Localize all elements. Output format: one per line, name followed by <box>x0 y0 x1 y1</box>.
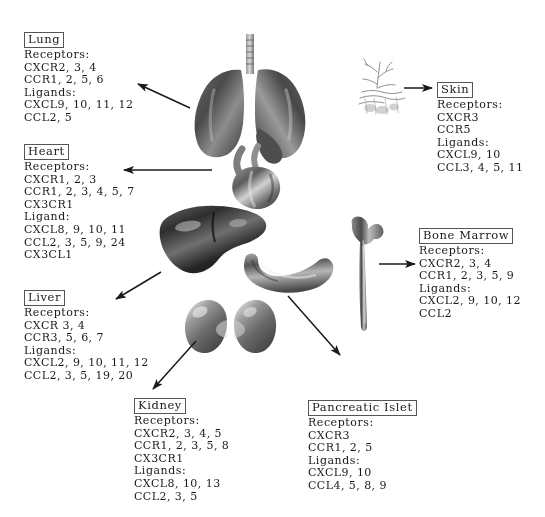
block-title-heart: Heart <box>24 144 69 160</box>
figure-canvas: Lung Receptors: CXCR2, 3, 4 CCR1, 2, 5, … <box>0 0 545 517</box>
annotation-block-skin: Skin Receptors: CXCR3 CCR5 Ligands: CXCL… <box>437 78 523 175</box>
kidneys-illustration <box>182 296 282 358</box>
kidney-ligand-ccl: CCL2, 3, 5 <box>134 491 229 504</box>
block-title-bone-marrow: Bone Marrow <box>419 228 513 244</box>
heart-ligand-cxcl: CXCL8, 9, 10, 11 <box>24 224 135 237</box>
islet-ligand-ccl: CCL4, 5, 8, 9 <box>308 480 417 493</box>
islet-receptors-header: Receptors: <box>308 417 417 430</box>
lung-ligand-ccl: CCL2, 5 <box>24 112 133 125</box>
skin-tissue-illustration <box>356 58 408 118</box>
lung-receptors-header: Receptors: <box>24 49 133 62</box>
femur-bone-illustration <box>348 214 392 336</box>
kidney-receptors-header: Receptors: <box>134 415 229 428</box>
islet-receptor-ccr: CCR1, 2, 5 <box>308 442 417 455</box>
annotation-block-heart: Heart Receptors: CXCR1, 2, 3 CCR1, 2, 3,… <box>24 140 135 262</box>
arrow-pancreas-to-pancreatic-islet <box>288 296 340 355</box>
liver-receptor-ccr: CCR3, 5, 6, 7 <box>24 332 149 345</box>
block-title-skin: Skin <box>437 82 473 98</box>
annotation-block-pancreatic-islet: Pancreatic Islet Receptors: CXCR3 CCR1, … <box>308 396 417 493</box>
kidney-ligand-cxcl: CXCL8, 10, 13 <box>134 478 229 491</box>
block-title-lung: Lung <box>24 32 64 48</box>
annotation-block-bone-marrow: Bone Marrow Receptors: CXCR2, 3, 4 CCR1,… <box>419 224 521 321</box>
skin-ligand-ccl: CCL3, 4, 5, 11 <box>437 162 523 175</box>
annotation-block-kidney: Kidney Receptors: CXCR2, 3, 4, 5 CCR1, 2… <box>134 394 229 503</box>
block-title-liver: Liver <box>24 290 65 306</box>
pancreas-illustration <box>238 248 340 300</box>
liver-ligand-ccl: CCL2, 3, 5, 19, 20 <box>24 370 149 383</box>
skin-receptors-header: Receptors: <box>437 99 523 112</box>
lung-receptor-ccr: CCR1, 2, 5, 6 <box>24 74 133 87</box>
block-title-kidney: Kidney <box>134 398 186 414</box>
heart-receptor-ccr: CCR1, 2, 3, 4, 5, 7 <box>24 186 135 199</box>
marrow-receptors-header: Receptors: <box>419 245 521 258</box>
annotation-block-liver: Liver Receptors: CXCR 3, 4 CCR3, 5, 6, 7… <box>24 286 149 383</box>
skin-receptor-ccr5: CCR5 <box>437 124 523 137</box>
marrow-ligand-ccl: CCL2 <box>419 308 521 321</box>
heart-receptors-header: Receptors: <box>24 161 135 174</box>
marrow-receptor-ccr: CCR1, 2, 3, 5, 9 <box>419 270 521 283</box>
kidney-receptor-ccr: CCR1, 2, 3, 5, 8 <box>134 440 229 453</box>
heart-ligand-cx3cl1: CX3CL1 <box>24 249 135 262</box>
arrow-lungs-to-lung <box>138 84 190 108</box>
annotation-block-lung: Lung Receptors: CXCR2, 3, 4 CCR1, 2, 5, … <box>24 28 133 125</box>
block-title-pancreatic-islet: Pancreatic Islet <box>308 400 417 416</box>
liver-receptors-header: Receptors: <box>24 307 149 320</box>
